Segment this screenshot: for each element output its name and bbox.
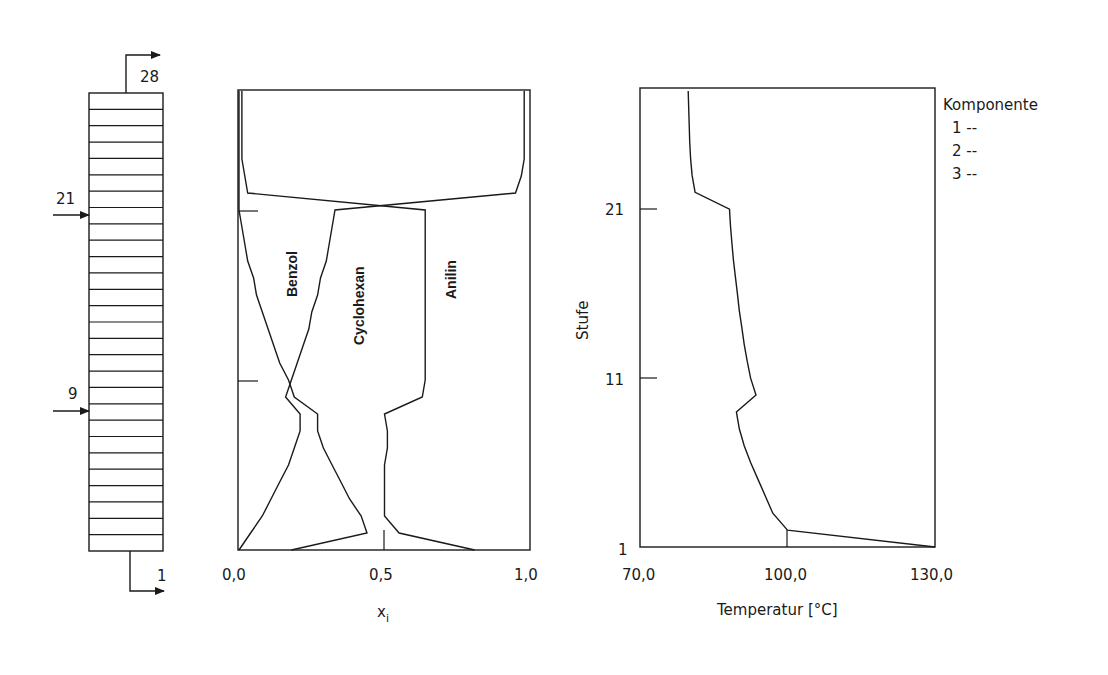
- legend-entry-2: 2 --: [952, 142, 977, 160]
- column-trays: [89, 109, 163, 534]
- legend-title: Komponente: [943, 96, 1038, 114]
- x1-tick-0-5: 0,5: [369, 566, 393, 584]
- temperature-line: [688, 91, 935, 547]
- feed-21-label: 21: [56, 190, 75, 208]
- anilin-annotation: Anilin: [443, 260, 459, 299]
- benzol-line: [239, 91, 367, 550]
- feed-9-label: 9: [68, 385, 78, 403]
- x2-tick-100: 100,0: [764, 566, 807, 584]
- legend-entry-1: 1 --: [952, 119, 977, 137]
- legend-entry-3: 3 --: [952, 165, 977, 183]
- x2-tick-130: 130,0: [910, 566, 953, 584]
- y2-tick-11: 11: [605, 371, 624, 389]
- x2-tick-70: 70,0: [622, 566, 655, 584]
- cyclohexan-line: [239, 91, 524, 550]
- legend: Komponente 1 -- 2 -- 3 --: [943, 96, 1038, 183]
- distillation-column: 28 21 9 1: [53, 55, 167, 591]
- y2-tick-1: 1: [618, 541, 628, 559]
- figure: 28 21 9 1 Benzol Cyclohexan Anilin 0,0 0…: [0, 0, 1108, 675]
- x1-tick-1: 1,0: [514, 566, 538, 584]
- x2-axis-label: Temperatur [°C]: [716, 601, 838, 619]
- bottom-stage-label: 1: [157, 567, 167, 585]
- temperature-plot-frame: [640, 88, 935, 547]
- y2-axis-label: Stufe: [574, 301, 592, 340]
- composition-chart: Benzol Cyclohexan Anilin 0,0 0,5 1,0 xi: [222, 90, 538, 625]
- cyclohexan-annotation: Cyclohexan: [351, 266, 367, 345]
- y2-tick-21: 21: [605, 201, 624, 219]
- x1-tick-0: 0,0: [222, 566, 246, 584]
- benzol-annotation: Benzol: [284, 251, 300, 297]
- top-stage-label: 28: [140, 68, 159, 86]
- x1-axis-label: xi: [377, 603, 389, 625]
- temperature-chart: 21 11 1 Stufe 70,0 100,0 130,0 Temperatu…: [574, 88, 1038, 619]
